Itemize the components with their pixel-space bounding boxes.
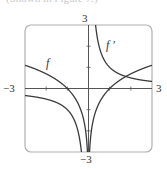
y-min-label: −3 bbox=[80, 153, 92, 165]
f-prime-curve-branch-1 bbox=[89, 4, 152, 82]
f-curve-branch-0 bbox=[25, 65, 88, 169]
x-min-label: −3 bbox=[3, 82, 15, 94]
axes bbox=[25, 25, 152, 152]
y-max-label: 3 bbox=[82, 12, 88, 24]
f-curve-label: f bbox=[46, 56, 51, 70]
f-prime-curve-label: f ′ bbox=[106, 38, 115, 52]
function-plot: 3 −3 −3 3 f f ′ bbox=[0, 0, 167, 169]
x-max-label: 3 bbox=[156, 82, 162, 94]
